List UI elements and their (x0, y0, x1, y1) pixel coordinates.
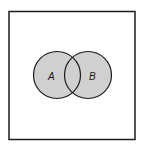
set-b-label: B (89, 71, 96, 82)
set-a-label: A (47, 71, 55, 82)
venn-diagram: A B (0, 0, 144, 146)
